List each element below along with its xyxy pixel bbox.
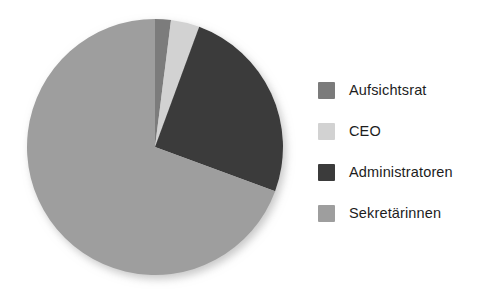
- pie-svg: [0, 0, 300, 297]
- legend-item-sekretaerinnen[interactable]: Sekretärinnen: [318, 193, 493, 234]
- legend-swatch-icon: [318, 82, 335, 99]
- pie-chart-figure: Aufsichtsrat CEO Administratoren Sekretä…: [0, 0, 493, 297]
- legend-item-label: Administratoren: [349, 165, 453, 180]
- pie-slice-group: [27, 19, 283, 275]
- pie-plot-area: [0, 0, 300, 297]
- legend-swatch-icon: [318, 123, 335, 140]
- legend-item-label: Sekretärinnen: [349, 206, 441, 221]
- legend-item-label: CEO: [349, 124, 381, 139]
- chart-legend: Aufsichtsrat CEO Administratoren Sekretä…: [318, 70, 493, 230]
- legend-item-ceo[interactable]: CEO: [318, 111, 493, 152]
- legend-item-aufsichtsrat[interactable]: Aufsichtsrat: [318, 70, 493, 111]
- legend-item-administratoren[interactable]: Administratoren: [318, 152, 493, 193]
- legend-swatch-icon: [318, 164, 335, 181]
- legend-item-label: Aufsichtsrat: [349, 83, 427, 98]
- legend-swatch-icon: [318, 205, 335, 222]
